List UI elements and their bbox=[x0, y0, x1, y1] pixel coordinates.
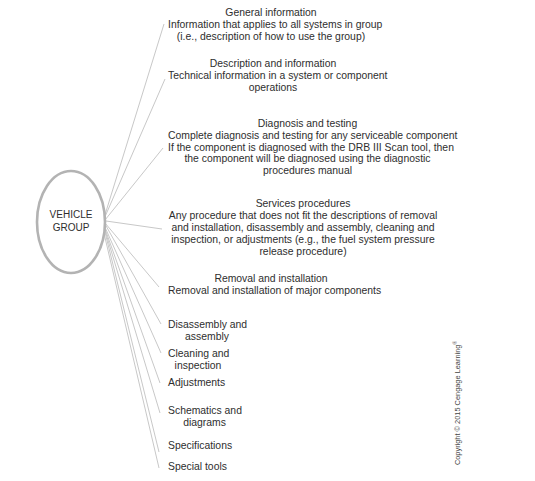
branch-text: inspection bbox=[168, 360, 228, 372]
branch-text: If the component is diagnosed with the D… bbox=[168, 142, 447, 154]
branch-text: Disassembly and bbox=[168, 319, 246, 331]
connector-lines bbox=[103, 24, 165, 468]
branch-disassembly-assembly: Disassembly and assembly bbox=[168, 319, 246, 343]
vehicle-group-label: VEHICLE GROUP bbox=[36, 208, 106, 234]
connector-services-procedures bbox=[106, 221, 162, 229]
branch-description-information: Description and information Technical in… bbox=[168, 58, 378, 94]
branch-text: and installation, disassembly and assemb… bbox=[168, 222, 438, 234]
branch-text: procedures manual bbox=[168, 165, 447, 177]
branch-adjustments: Adjustments bbox=[168, 377, 225, 389]
connector-description-information bbox=[104, 79, 165, 219]
branch-special-tools: Special tools bbox=[168, 461, 227, 473]
branch-title: Removal and installation bbox=[168, 273, 374, 285]
branch-text: Specifications bbox=[168, 440, 232, 452]
branch-title: Diagnosis and testing bbox=[168, 118, 447, 130]
branch-specifications: Specifications bbox=[168, 440, 232, 452]
branch-text: Complete diagnosis and testing for any s… bbox=[168, 130, 447, 142]
branch-text: the component will be diagnosed using th… bbox=[168, 153, 447, 165]
branch-diagnosis-testing: Diagnosis and testing Complete diagnosis… bbox=[168, 118, 447, 177]
branch-cleaning-inspection: Cleaning and inspection bbox=[168, 348, 228, 372]
connector-diagnosis-testing bbox=[105, 148, 163, 220]
connector-general-information bbox=[104, 24, 164, 218]
hub-label-line-2: GROUP bbox=[36, 221, 106, 234]
branch-text: (i.e., description of how to use the gro… bbox=[168, 31, 374, 43]
copyright-notice: Copyright © 2015 Cengage Learning® bbox=[452, 341, 462, 465]
connector-special-tools bbox=[103, 229, 159, 468]
branch-text: Schematics and bbox=[168, 405, 241, 417]
copyright-text: Copyright © 2015 Cengage Learning bbox=[453, 345, 462, 466]
branch-text: Technical information in a system or com… bbox=[168, 70, 378, 82]
branch-text: inspection, or adjustments (e.g., the fu… bbox=[168, 234, 438, 246]
hub-label-line-1: VEHICLE bbox=[36, 208, 106, 221]
branch-text: operations bbox=[168, 82, 378, 94]
branch-text: Adjustments bbox=[168, 377, 225, 389]
branch-title: Services procedures bbox=[168, 198, 438, 210]
branch-title: General information bbox=[168, 7, 374, 19]
branch-removal-installation: Removal and installation Removal and ins… bbox=[168, 273, 374, 297]
registered-mark: ® bbox=[452, 341, 458, 345]
branch-text: assembly bbox=[168, 331, 246, 343]
branch-schematics-diagrams: Schematics and diagrams bbox=[168, 405, 241, 429]
branch-text: Removal and installation of major compon… bbox=[168, 285, 374, 297]
branch-text: Any procedure that does not fit the desc… bbox=[168, 210, 438, 222]
branch-title: Description and information bbox=[168, 58, 378, 70]
connector-specifications bbox=[104, 228, 159, 452]
branch-text: Cleaning and bbox=[168, 348, 228, 360]
branch-text: Special tools bbox=[168, 461, 227, 473]
branch-text: Information that applies to all systems … bbox=[168, 19, 374, 31]
connector-cleaning-inspection bbox=[104, 225, 161, 353]
branch-text: release procedure) bbox=[168, 246, 438, 258]
connector-adjustments bbox=[104, 226, 160, 383]
branch-general-information: General information Information that app… bbox=[168, 7, 374, 43]
branch-services-procedures: Services procedures Any procedure that d… bbox=[168, 198, 438, 258]
connector-removal-installation bbox=[105, 223, 159, 287]
branch-text: diagrams bbox=[168, 417, 241, 429]
